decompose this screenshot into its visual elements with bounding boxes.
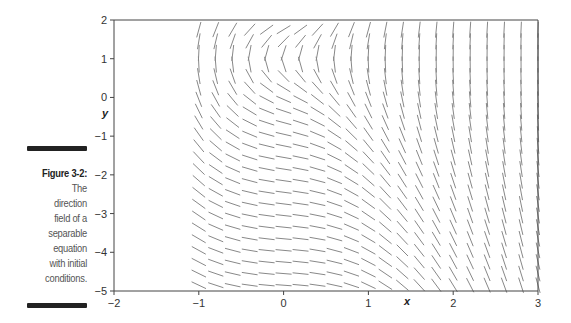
slope-segment	[310, 284, 326, 286]
slope-segment	[259, 226, 275, 228]
slope-segment	[310, 190, 326, 194]
slope-segment	[276, 261, 292, 262]
slope-segment	[347, 104, 356, 117]
slope-segment	[312, 82, 323, 94]
y-axis-label: y	[101, 107, 109, 119]
slope-segment	[225, 190, 240, 196]
slope-segment	[397, 221, 408, 233]
slope-segment	[209, 153, 222, 163]
slope-segment	[363, 164, 375, 175]
slope-segment	[293, 284, 309, 286]
slope-segment	[415, 197, 423, 211]
slope-segment	[415, 232, 425, 245]
slope-segment	[209, 177, 223, 185]
y-axis-ticks: 210−1−2−3−4−5	[94, 14, 114, 297]
slope-segment	[379, 234, 392, 244]
slope-segment	[225, 272, 241, 276]
slope-segment	[415, 209, 424, 222]
slope-segment	[192, 270, 206, 277]
slope-segment	[213, 22, 219, 37]
slope-segment	[246, 34, 254, 48]
slope-segment	[414, 268, 425, 280]
slope-segment	[276, 132, 292, 136]
slope-segment	[379, 246, 392, 256]
slope-segment	[244, 82, 255, 94]
slope-segment	[397, 257, 409, 268]
slope-segment	[368, 45, 369, 61]
slope-segment	[209, 188, 223, 196]
slope-segment	[327, 166, 342, 173]
slope-segment	[380, 210, 392, 221]
slope-segment	[314, 34, 322, 48]
slope-segment	[227, 106, 239, 117]
slope-segment	[225, 260, 241, 264]
slope-segment	[293, 191, 309, 194]
slope-segment	[262, 70, 272, 82]
slope-segment	[294, 96, 308, 103]
x-tick-label: 1	[365, 297, 371, 309]
slope-segment	[415, 221, 424, 234]
slope-segment	[310, 119, 324, 126]
slope-segment	[225, 178, 240, 184]
slope-segment	[312, 24, 323, 36]
slope-segment	[230, 34, 235, 49]
slope-segment	[397, 233, 408, 245]
slope-segment	[364, 128, 373, 141]
slope-segment	[310, 226, 326, 229]
slope-segment	[362, 187, 375, 197]
slope-segment	[414, 244, 424, 257]
slope-segment	[294, 83, 307, 93]
slope-segment	[381, 151, 390, 164]
slope-segment	[362, 199, 375, 208]
slope-segment	[209, 200, 223, 207]
slope-segment	[225, 237, 240, 241]
slope-segment	[344, 200, 358, 207]
slope-segment	[467, 266, 474, 280]
slope-segment	[314, 69, 322, 83]
slope-segment	[293, 132, 308, 136]
slope-segment	[276, 238, 292, 240]
slope-segment	[276, 96, 291, 102]
slope-segment	[259, 120, 274, 125]
slope-segment	[243, 107, 257, 115]
slope-segment	[328, 142, 342, 150]
slope-segment	[278, 70, 289, 81]
slope-segment	[414, 256, 424, 268]
slope-segment	[260, 83, 273, 93]
slope-segment	[361, 270, 375, 277]
slope-segment	[276, 273, 292, 274]
slope-segment	[230, 69, 235, 84]
slope-segment	[332, 69, 337, 84]
slope-segment	[346, 129, 357, 140]
slope-segment	[293, 250, 309, 252]
slope-segment	[344, 271, 359, 276]
slope-segment	[242, 284, 258, 286]
slope-segment	[242, 237, 258, 240]
slope-segment	[316, 45, 319, 61]
slope-segment	[259, 284, 275, 286]
slope-segment	[432, 267, 441, 280]
slope-segment	[242, 226, 258, 229]
slope-segment	[310, 179, 326, 183]
slope-segment	[398, 186, 407, 199]
slope-segment	[467, 278, 474, 292]
y-tick-label: −3	[94, 208, 107, 220]
slope-segment	[193, 175, 205, 186]
slope-segment	[259, 108, 274, 114]
slope-segment	[380, 186, 391, 198]
slope-segment	[432, 232, 440, 246]
slope-segment	[193, 187, 206, 197]
slope-segment	[344, 283, 359, 288]
slope-segment	[209, 165, 222, 174]
slope-segment	[449, 278, 457, 292]
slope-segment	[242, 202, 258, 205]
slope-segment	[242, 214, 258, 217]
y-tick-label: −1	[94, 130, 107, 142]
slope-segment	[232, 45, 234, 61]
slope-segment	[198, 45, 199, 61]
slope-segment	[226, 142, 240, 150]
slope-segment	[293, 108, 308, 114]
slope-segment	[225, 166, 240, 173]
slope-segment	[381, 163, 391, 176]
slope-segment	[397, 245, 408, 256]
